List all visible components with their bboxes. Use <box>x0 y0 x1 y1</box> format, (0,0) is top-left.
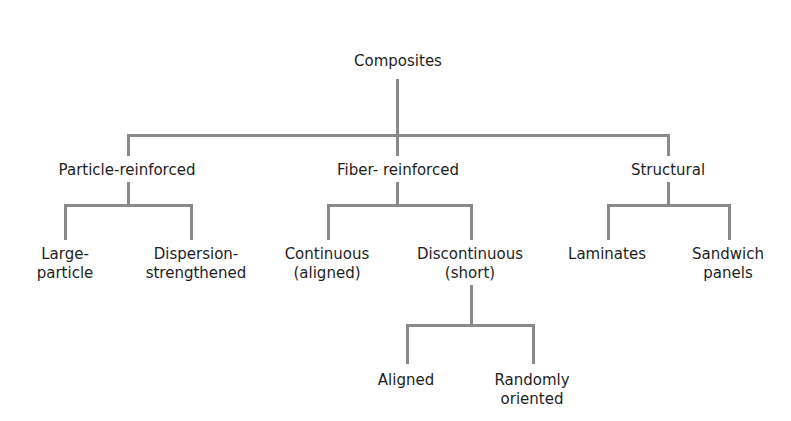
connector-random <box>532 324 535 364</box>
connector-fiber-up <box>396 134 399 156</box>
connector-continuous <box>327 204 330 240</box>
connector-structural-up <box>667 134 670 156</box>
connector-particle-bar <box>64 204 193 207</box>
connector-particle-up <box>127 134 130 156</box>
connector-fiber-bar <box>327 204 473 207</box>
node-label-line1: Discontinuous <box>417 245 523 264</box>
node-label-line2: particle <box>37 264 94 283</box>
node-label-line2: panels <box>692 264 764 283</box>
node-discontinuous-short: Discontinuous (short) <box>417 245 523 283</box>
node-label: Composites <box>354 52 442 71</box>
connector-aligned <box>406 324 409 364</box>
node-randomly-oriented: Randomly oriented <box>494 371 569 409</box>
node-continuous-aligned: Continuous (aligned) <box>285 245 370 283</box>
node-label-line1: Sandwich <box>692 245 764 264</box>
connector-root <box>396 79 399 135</box>
node-label-line1: Large- <box>37 245 94 264</box>
node-sandwich-panels: Sandwich panels <box>692 245 764 283</box>
node-label-line2: (short) <box>417 264 523 283</box>
connector-particle-down <box>127 182 130 206</box>
connector-structural-bar <box>607 204 731 207</box>
node-label-line1: Laminates <box>568 245 646 264</box>
node-dispersion-strengthened: Dispersion- strengthened <box>146 245 247 283</box>
connector-fiber-down <box>396 182 399 206</box>
node-label-line1: Dispersion- <box>146 245 247 264</box>
connector-structural-down <box>667 182 670 206</box>
node-particle-reinforced: Particle-reinforced <box>59 161 196 180</box>
node-structural: Structural <box>631 161 705 180</box>
connector-discontinuous <box>470 204 473 240</box>
node-label-line1: Randomly <box>494 371 569 390</box>
node-label-line2: strengthened <box>146 264 247 283</box>
connector-discontinuous-down <box>470 285 473 326</box>
connector-sandwich <box>728 204 731 240</box>
node-laminates: Laminates <box>568 245 646 264</box>
node-label: Particle-reinforced <box>59 161 196 180</box>
node-label-line2: oriented <box>494 390 569 409</box>
node-label: Fiber- reinforced <box>337 161 459 180</box>
connector-large-particle <box>64 204 67 240</box>
node-composites: Composites <box>354 52 442 71</box>
connector-dispersion <box>190 204 193 240</box>
connector-laminates <box>607 204 610 240</box>
node-label-line1: Continuous <box>285 245 370 264</box>
connector-discontinuous-bar <box>406 324 535 327</box>
node-aligned: Aligned <box>378 371 434 390</box>
node-label: Structural <box>631 161 705 180</box>
node-fiber-reinforced: Fiber- reinforced <box>337 161 459 180</box>
node-label-line2: (aligned) <box>285 264 370 283</box>
node-large-particle: Large- particle <box>37 245 94 283</box>
node-label-line1: Aligned <box>378 371 434 390</box>
